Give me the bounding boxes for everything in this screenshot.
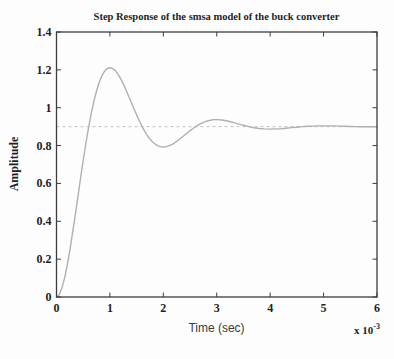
x-tick-label: 0 <box>54 301 60 315</box>
y-tick-label: 0 <box>46 290 52 304</box>
y-tick-label: 1 <box>46 101 52 115</box>
y-tick-label: 0.4 <box>37 214 52 228</box>
x-scale-base: x 10 <box>354 324 373 336</box>
figure-root: Step Response of the smsa model of the b… <box>0 0 394 359</box>
y-axis-label: Amplitude <box>7 137 22 192</box>
x-tick-label: 4 <box>267 301 273 315</box>
plot-svg: 012345600.20.40.60.811.21.4 <box>0 0 394 359</box>
x-tick-label: 5 <box>321 301 327 315</box>
x-tick-label: 3 <box>214 301 220 315</box>
x-tick-label: 6 <box>374 301 380 315</box>
y-tick-label: 0.6 <box>37 176 52 190</box>
x-axis-label: Time (sec) <box>56 321 377 335</box>
y-tick-label: 1.4 <box>37 25 52 39</box>
x-tick-label: 2 <box>160 301 166 315</box>
y-tick-label: 0.8 <box>37 139 52 153</box>
x-scale-exponent: -3 <box>373 322 380 331</box>
x-tick-label: 1 <box>107 301 113 315</box>
x-axis-scale-label: x 10-3 <box>354 322 380 336</box>
step-response-curve <box>57 68 378 297</box>
y-tick-label: 1.2 <box>37 63 52 77</box>
y-tick-label: 0.2 <box>37 252 52 266</box>
